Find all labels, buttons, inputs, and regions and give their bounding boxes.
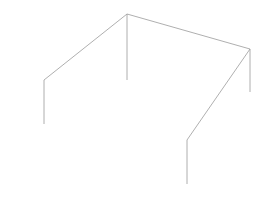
bounding-box-back <box>44 14 250 92</box>
bounding-box-front <box>44 49 250 184</box>
surface-plot <box>0 0 269 208</box>
